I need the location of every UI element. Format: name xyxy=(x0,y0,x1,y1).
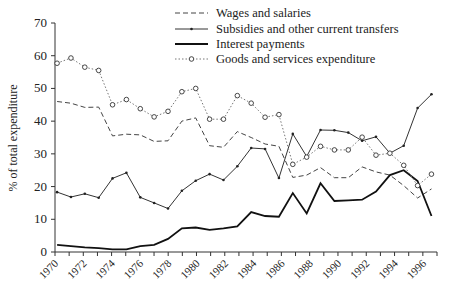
subsidies-marker xyxy=(416,107,419,110)
x-tick-label: 1972 xyxy=(65,257,89,281)
goods-services-marker xyxy=(110,102,115,107)
legend-marker xyxy=(190,28,193,31)
y-tick-label: 70 xyxy=(34,15,47,30)
goods-services-marker xyxy=(96,68,101,73)
y-tick-label: 40 xyxy=(34,113,47,128)
subsidies-marker xyxy=(222,179,225,182)
goods-services-marker xyxy=(138,106,143,111)
goods-services-marker xyxy=(277,112,282,117)
goods-services-marker xyxy=(332,148,337,153)
goods-services-marker xyxy=(429,172,434,177)
subsidies-marker xyxy=(167,207,170,210)
subsidies-marker xyxy=(125,172,128,175)
y-tick-label: 30 xyxy=(34,146,47,161)
subsidies-marker xyxy=(236,165,239,168)
goods-services-marker xyxy=(124,97,129,102)
x-tick-label: 1974 xyxy=(93,257,117,281)
subsidies-marker xyxy=(319,129,322,132)
subsidies-marker xyxy=(430,93,433,96)
x-tick-label: 1970 xyxy=(36,257,60,281)
x-tick-label: 1992 xyxy=(348,257,372,281)
goods-services-marker xyxy=(249,101,254,106)
x-tick-label: 1996 xyxy=(404,257,428,281)
subsidies-marker xyxy=(208,173,211,176)
x-tick-label: 1980 xyxy=(178,257,202,281)
goods-services-marker xyxy=(166,109,171,114)
goods-services-marker xyxy=(388,151,393,156)
x-tick-label: 1978 xyxy=(150,257,174,281)
series-lines xyxy=(55,56,434,250)
subsidies-marker xyxy=(139,196,142,199)
line-chart: 0102030405060701970197219741976197819801… xyxy=(0,0,451,295)
goods-services-marker xyxy=(318,144,323,149)
subsidies-marker xyxy=(264,148,267,151)
subsidies-marker xyxy=(70,196,73,199)
y-tick-label: 0 xyxy=(41,244,48,259)
subsidies-marker xyxy=(153,202,156,205)
subsidies-marker xyxy=(56,191,59,194)
goods-services-marker xyxy=(193,86,198,91)
x-tick-label: 1982 xyxy=(206,257,230,281)
subsidies-marker xyxy=(250,147,253,150)
goods-services-marker xyxy=(263,115,268,120)
goods-services-marker xyxy=(374,153,379,158)
goods-services-marker xyxy=(346,148,351,153)
goods-services-marker xyxy=(221,117,226,122)
subsidies-marker xyxy=(375,136,378,139)
goods-services-marker xyxy=(180,89,185,94)
goods-services-line xyxy=(57,58,431,186)
goods-services-marker xyxy=(69,56,74,61)
subsidies-marker xyxy=(181,190,184,193)
legend: Wages and salariesSubsidies and other cu… xyxy=(175,6,399,66)
y-tick-label: 50 xyxy=(34,80,47,95)
y-axis-label: % of total expenditure xyxy=(6,85,20,192)
goods-services-marker xyxy=(290,162,295,167)
x-tick-label: 1984 xyxy=(234,257,258,281)
x-tick-label: 1988 xyxy=(291,257,315,281)
subsidies-marker xyxy=(278,177,281,180)
y-tick-label: 20 xyxy=(34,179,47,194)
legend-wages-label: Wages and salaries xyxy=(216,6,311,20)
subsidies-marker xyxy=(333,129,336,132)
x-tick-label: 1986 xyxy=(263,257,287,281)
subsidies-marker xyxy=(111,177,114,180)
x-tick-label: 1994 xyxy=(376,257,400,281)
goods-services-marker xyxy=(235,93,240,98)
goods-services-marker xyxy=(55,61,60,66)
chart-canvas: 0102030405060701970197219741976197819801… xyxy=(0,0,451,295)
legend-subsidies-label: Subsidies and other current transfers xyxy=(216,22,399,36)
legend-interest-label: Interest payments xyxy=(216,37,305,51)
subsidies-marker xyxy=(194,179,197,182)
wages-salaries-line xyxy=(57,102,431,199)
legend-marker xyxy=(189,57,194,62)
goods-services-marker xyxy=(304,155,309,160)
interest-payments-line xyxy=(57,170,431,249)
subsidies-marker xyxy=(84,192,87,195)
subsidies-marker xyxy=(291,133,294,136)
y-tick-label: 10 xyxy=(34,211,47,226)
goods-services-marker xyxy=(401,163,406,168)
subsidies-marker xyxy=(402,144,405,147)
goods-services-marker xyxy=(360,135,365,140)
goods-services-marker xyxy=(83,65,88,70)
goods-services-marker xyxy=(207,117,212,122)
subsidies-marker xyxy=(347,131,350,134)
goods-services-marker xyxy=(415,183,420,188)
x-tick-label: 1976 xyxy=(121,257,145,281)
goods-services-marker xyxy=(152,115,157,120)
y-tick-label: 60 xyxy=(34,48,47,63)
legend-goods-label: Goods and services expenditure xyxy=(216,52,376,66)
subsidies-marker xyxy=(97,196,100,199)
x-tick-label: 1990 xyxy=(319,257,343,281)
